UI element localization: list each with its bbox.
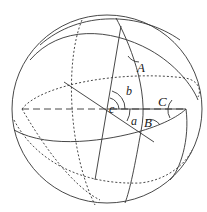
- dotted-meridian-far: [22, 109, 100, 200]
- dotted-meridian-left: [71, 20, 95, 205]
- label-arc-c: c: [109, 102, 115, 116]
- sphere-figure: A b C c a B: [0, 0, 207, 212]
- label-angle-C: C: [158, 94, 167, 109]
- dotted-great-circle-bottom: [14, 120, 192, 183]
- label-angle-A: A: [136, 60, 145, 75]
- angle-arc-a: [127, 109, 130, 121]
- label-arc-a: a: [131, 114, 137, 128]
- great-circle-BC: [14, 109, 186, 142]
- label-arc-b: b: [126, 84, 132, 98]
- label-angle-B: B: [144, 115, 152, 130]
- great-circle-top: [40, 19, 180, 45]
- spherical-triangle-diagram: A b C c a B: [0, 0, 207, 212]
- great-circle-right: [170, 109, 187, 180]
